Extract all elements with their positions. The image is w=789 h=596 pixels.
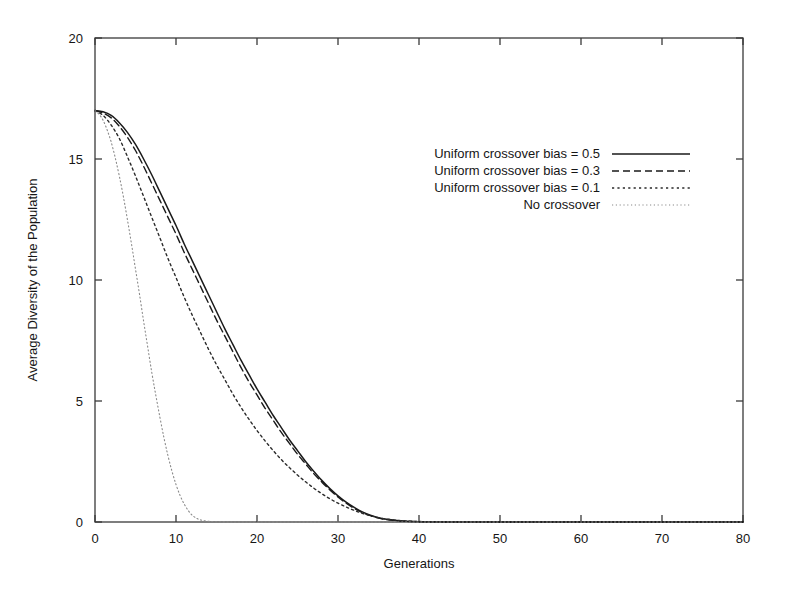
legend-label-3: No crossover bbox=[523, 197, 600, 212]
y-tick-label: 0 bbox=[76, 515, 83, 530]
x-tick-label: 80 bbox=[736, 531, 750, 546]
x-tick-label: 60 bbox=[574, 531, 588, 546]
y-tick-label: 15 bbox=[69, 152, 83, 167]
legend-label-0: Uniform crossover bias = 0.5 bbox=[434, 146, 600, 161]
y-tick-label: 10 bbox=[69, 273, 83, 288]
legend-label-2: Uniform crossover bias = 0.1 bbox=[434, 180, 600, 195]
y-axis-title: Average Diversity of the Population bbox=[25, 179, 40, 382]
y-tick-label: 20 bbox=[69, 31, 83, 46]
y-tick-label: 5 bbox=[76, 394, 83, 409]
legend-label-1: Uniform crossover bias = 0.3 bbox=[434, 163, 600, 178]
diversity-line-chart: 01020304050607080 05101520 Uniform cross… bbox=[0, 0, 789, 596]
chart-figure: 01020304050607080 05101520 Uniform cross… bbox=[0, 0, 789, 596]
x-tick-label: 20 bbox=[250, 531, 264, 546]
x-tick-label: 0 bbox=[91, 531, 98, 546]
x-axis-title: Generations bbox=[384, 556, 455, 571]
x-tick-label: 50 bbox=[493, 531, 507, 546]
x-tick-label: 10 bbox=[169, 531, 183, 546]
x-tick-label: 40 bbox=[412, 531, 426, 546]
x-tick-label: 70 bbox=[655, 531, 669, 546]
x-tick-label: 30 bbox=[331, 531, 345, 546]
chart-background bbox=[0, 0, 789, 596]
